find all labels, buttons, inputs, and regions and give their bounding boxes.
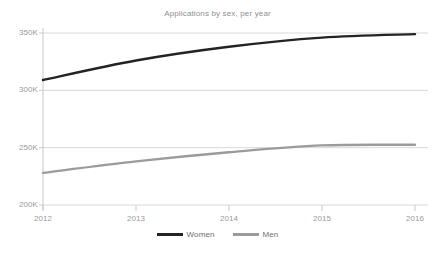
series-lines-group [43, 34, 415, 173]
y-tick-label: 200K [4, 200, 38, 209]
legend-swatch-women [157, 233, 183, 236]
y-tick-label: 300K [4, 85, 38, 94]
x-tick-label: 2014 [209, 214, 249, 223]
x-tick-label: 2015 [302, 214, 342, 223]
legend-label: Women [187, 230, 215, 239]
gridlines-group [43, 33, 428, 205]
legend-label: Men [263, 230, 279, 239]
x-tick-label: 2013 [116, 214, 156, 223]
x-tick-label: 2012 [23, 214, 63, 223]
x-tick-label: 2016 [395, 214, 435, 223]
series-line-men [43, 145, 415, 173]
legend-swatch-men [233, 233, 259, 236]
legend-item-women[interactable]: Women [157, 230, 215, 239]
chart-legend: WomenMen [0, 230, 435, 239]
y-tick-label: 350K [4, 28, 38, 37]
axes-group [39, 28, 415, 211]
chart-container: Applications by sex, per year 350K300K25… [0, 0, 435, 253]
legend-item-men[interactable]: Men [233, 230, 279, 239]
series-line-women [43, 34, 415, 80]
y-tick-label: 250K [4, 143, 38, 152]
